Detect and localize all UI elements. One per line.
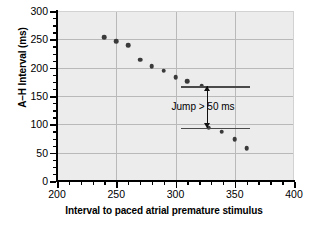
x-tick-minor (199, 182, 200, 185)
y-axis-line (56, 10, 58, 182)
y-axis-title: A–H Interval (ms) (17, 3, 28, 133)
x-tick-minor (247, 182, 248, 185)
y-tick-label: 150 (30, 91, 48, 101)
y-tick-label: 50 (36, 148, 48, 158)
x-tick-minor (258, 182, 259, 185)
data-point (150, 64, 155, 69)
x-tick-minor (69, 182, 70, 185)
y-tick-minor (53, 54, 56, 55)
arrowhead-down-icon (204, 123, 210, 128)
x-axis-title: Interval to paced atrial premature stimu… (0, 205, 328, 216)
data-point (219, 129, 224, 134)
y-tick-minor (53, 146, 56, 147)
x-tick-minor (140, 182, 141, 185)
gridline-x-300 (176, 11, 177, 181)
gridline-x-250 (116, 11, 117, 181)
y-tick-minor (53, 18, 56, 19)
y-tick-minor (53, 139, 56, 140)
data-point (102, 35, 107, 40)
y-tick-label: 200 (30, 63, 48, 73)
y-tick (50, 11, 56, 13)
y-tick-minor (53, 103, 56, 104)
y-tick-label: 100 (30, 119, 48, 129)
jump-annotation: Jump > 50 ms (171, 101, 234, 112)
y-tick (50, 39, 56, 41)
y-tick-minor (53, 46, 56, 47)
arrowhead-up-icon (204, 86, 210, 91)
x-tick-minor (104, 182, 105, 185)
x-tick-minor (211, 182, 212, 185)
x-tick-label: 350 (215, 189, 255, 199)
x-tick-minor (93, 182, 94, 185)
y-tick (50, 68, 56, 70)
x-tick-minor (164, 182, 165, 185)
y-tick (50, 153, 56, 155)
x-tick-label: 400 (274, 189, 314, 199)
y-tick-minor (53, 32, 56, 33)
data-point (138, 57, 143, 62)
y-tick-label: 0 (42, 176, 48, 186)
x-tick-minor (81, 182, 82, 185)
lower-reference-line (181, 128, 250, 130)
chart-figure: Jump > 50 ms 050100150200250300200250300… (0, 0, 328, 227)
data-point (173, 75, 178, 80)
y-tick-minor (53, 131, 56, 132)
plot-area (57, 11, 294, 181)
y-tick-minor (53, 117, 56, 118)
y-tick-label: 250 (30, 34, 48, 44)
y-tick (50, 181, 56, 183)
x-tick-minor (152, 182, 153, 185)
data-point (232, 137, 237, 142)
x-tick-minor (187, 182, 188, 185)
x-tick-minor (128, 182, 129, 185)
data-point (114, 39, 119, 44)
y-tick (50, 96, 56, 98)
y-tick-minor (53, 61, 56, 62)
y-tick-minor (53, 82, 56, 83)
data-point (161, 68, 166, 73)
data-point (185, 79, 190, 84)
x-tick-minor (223, 182, 224, 185)
data-point (126, 43, 131, 48)
y-tick-minor (53, 25, 56, 26)
data-point (244, 146, 249, 151)
y-tick-minor (53, 167, 56, 168)
x-tick-label: 200 (37, 189, 77, 199)
upper-reference-line (181, 86, 250, 88)
x-tick-minor (270, 182, 271, 185)
y-tick-minor (53, 110, 56, 111)
gridline-x-350 (235, 11, 236, 181)
y-tick-minor (53, 174, 56, 175)
y-tick-minor (53, 89, 56, 90)
y-tick (50, 124, 56, 126)
x-tick-minor (282, 182, 283, 185)
y-tick-label: 300 (30, 6, 48, 16)
y-tick-minor (53, 160, 56, 161)
x-tick-label: 300 (156, 189, 196, 199)
x-tick-label: 250 (96, 189, 136, 199)
y-tick-minor (53, 75, 56, 76)
